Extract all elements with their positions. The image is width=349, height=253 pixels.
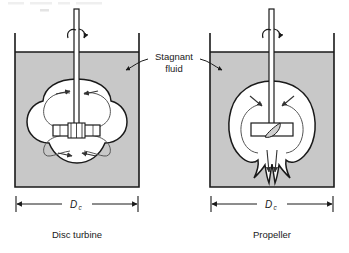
figure-canvas: D c Disc turbine [0,0,349,253]
mixing-vessel-diagram: D c Disc turbine [0,0,349,253]
impeller-propeller [251,123,293,137]
caption-disc-turbine: Disc turbine [52,229,102,240]
impeller-shaft-right [269,9,274,127]
callout-line-2: fluid [165,63,182,74]
dimension-label-right: D [265,199,272,210]
impeller-disc-turbine [53,123,100,138]
impeller-shaft-left [74,9,79,127]
caption-propeller: Propeller [253,229,291,240]
dimension-label-left: D [70,199,77,210]
callout-line-1: Stagnant [155,51,193,62]
